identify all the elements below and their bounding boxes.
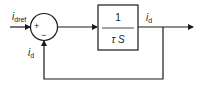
minus-sign: −: [41, 31, 46, 40]
block-numerator: 1: [98, 12, 138, 23]
block-denominator: τ S: [98, 34, 138, 45]
plus-sign: +: [34, 22, 39, 31]
feedback-label: id: [28, 48, 34, 59]
output-label: id: [146, 13, 152, 24]
input-label: idref: [12, 12, 26, 23]
